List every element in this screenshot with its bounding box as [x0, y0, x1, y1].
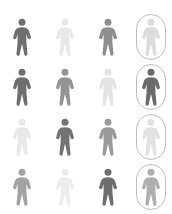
- person-icon: [140, 18, 162, 56]
- person-icon: [97, 68, 119, 106]
- grid-cell-r4c2[interactable]: [43, 162, 86, 212]
- person-icon: [97, 168, 119, 206]
- grid-cell-r3c1[interactable]: [0, 112, 43, 162]
- grid-cell-r4c1[interactable]: [0, 162, 43, 212]
- grid-cell-r2c3[interactable]: [86, 62, 129, 112]
- person-icon: [140, 118, 162, 156]
- grid-row: [0, 112, 172, 162]
- grid-cell-r2c4[interactable]: [129, 62, 172, 112]
- person-icon: [54, 168, 76, 206]
- person-icon: [11, 18, 33, 56]
- grid-cell-r4c4[interactable]: [129, 162, 172, 212]
- person-icon: [54, 68, 76, 106]
- person-icon: [11, 68, 33, 106]
- grid-cell-r3c2[interactable]: [43, 112, 86, 162]
- person-icon: [54, 18, 76, 56]
- grid-row: [0, 12, 172, 62]
- grid-cell-r4c3[interactable]: [86, 162, 129, 212]
- grid-cell-r2c1[interactable]: [0, 62, 43, 112]
- grid-row: [0, 62, 172, 112]
- grid-cell-r1c3[interactable]: [86, 12, 129, 62]
- person-icon: [97, 118, 119, 156]
- grid-row: [0, 162, 172, 212]
- grid-cell-r2c2[interactable]: [43, 62, 86, 112]
- grid-cell-r1c4[interactable]: [129, 12, 172, 62]
- people-grid: [0, 0, 172, 214]
- person-icon: [11, 168, 33, 206]
- person-icon: [11, 118, 33, 156]
- person-icon: [140, 168, 162, 206]
- grid-cell-r1c2[interactable]: [43, 12, 86, 62]
- grid-cell-r3c3[interactable]: [86, 112, 129, 162]
- grid-cell-r1c1[interactable]: [0, 12, 43, 62]
- person-icon: [97, 18, 119, 56]
- person-icon: [54, 118, 76, 156]
- grid-cell-r3c4[interactable]: [129, 112, 172, 162]
- person-icon: [140, 68, 162, 106]
